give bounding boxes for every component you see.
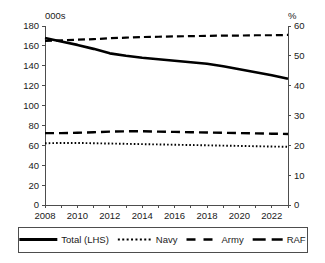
series-line-navy [45,143,288,147]
chart-legend: Total (LHS)NavyArmyRAF [18,227,307,252]
x-axis-tick-label: 2014 [132,210,153,221]
left-axis-tick-label: 40 [28,160,39,171]
left-axis-tick-label: 160 [23,40,39,51]
left-axis-tick-label: 100 [23,100,39,111]
x-axis-tick-label: 2010 [67,210,88,221]
left-axis-tick-label: 20 [28,180,39,191]
x-axis-tick-label: 2008 [34,210,55,221]
x-axis-tick-label: 2022 [261,210,282,221]
left-axis-tick-label: 0 [34,199,39,210]
left-axis-tick-label: 120 [23,80,39,91]
left-axis: 020406080100120140160180 [23,20,45,210]
right-axis-tick-label: 60 [294,20,305,31]
x-axis: 20082010201220142016201820202022 [34,205,288,221]
left-axis-unit-label: 000s [45,10,66,21]
legend-label: RAF [287,234,306,245]
right-axis-unit-label: % [288,10,297,21]
legend-label: Total (LHS) [61,234,109,245]
right-axis-tick-label: 30 [294,110,305,121]
right-axis: 0102030405060 [288,20,305,210]
series-layer [45,35,288,147]
left-axis-tick-label: 140 [23,60,39,71]
x-axis-tick-label: 2012 [99,210,120,221]
x-axis-tick-label: 2020 [229,210,250,221]
x-axis-tick-label: 2018 [196,210,217,221]
right-axis-tick-label: 0 [294,199,299,210]
left-axis-tick-label: 80 [28,120,39,131]
legend-label: Army [222,234,244,245]
series-line-raf [45,35,288,41]
line-chart: 000s % 020406080100120140160180 01020304… [0,0,325,263]
right-axis-tick-label: 50 [294,50,305,61]
right-axis-tick-label: 40 [294,80,305,91]
left-axis-tick-label: 60 [28,140,39,151]
series-line-army [45,131,288,134]
series-line-total-lhs [45,38,288,79]
chart-container: 000s % 020406080100120140160180 01020304… [0,0,325,263]
left-axis-tick-label: 180 [23,20,39,31]
x-axis-tick-label: 2016 [164,210,185,221]
right-axis-tick-label: 20 [294,140,305,151]
legend-label: Navy [156,234,178,245]
right-axis-tick-label: 10 [294,170,305,181]
